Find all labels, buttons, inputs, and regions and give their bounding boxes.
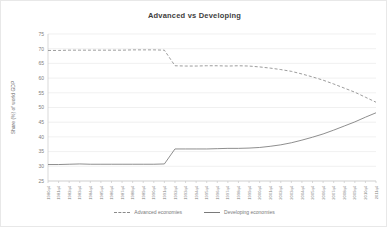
svg-text:1987q4: 1987q4: [120, 185, 125, 199]
svg-text:1986q4: 1986q4: [109, 185, 114, 199]
svg-text:2005q4: 2005q4: [310, 185, 315, 199]
svg-text:1998q4: 1998q4: [236, 185, 241, 199]
svg-text:1995q4: 1995q4: [204, 185, 209, 199]
legend-item-advanced: Advanced economies: [114, 209, 182, 215]
svg-text:75: 75: [38, 31, 44, 37]
legend-swatch-solid-icon: [204, 212, 220, 213]
x-axis-tick-labels: 1980q41981q41982q41983q41984q41985q41986…: [46, 181, 379, 200]
series-line-advanced-economies: [48, 50, 376, 102]
svg-text:1989q4: 1989q4: [141, 185, 146, 199]
svg-text:25: 25: [38, 178, 44, 184]
svg-text:2004q4: 2004q4: [300, 185, 305, 199]
svg-text:60: 60: [38, 75, 44, 81]
chart-plot-area: 2530354045505560657075 1980q41981q41982q…: [1, 1, 387, 227]
svg-text:1993q4: 1993q4: [183, 185, 188, 199]
svg-text:1994q4: 1994q4: [194, 185, 199, 199]
svg-text:2001q4: 2001q4: [268, 185, 273, 199]
svg-text:45: 45: [38, 119, 44, 125]
svg-text:2011q4: 2011q4: [374, 185, 379, 199]
svg-text:1982q4: 1982q4: [67, 185, 72, 199]
svg-text:2000q4: 2000q4: [257, 185, 262, 199]
svg-text:1992q4: 1992q4: [173, 185, 178, 199]
legend-label-advanced: Advanced economies: [134, 209, 182, 215]
svg-text:1990q4: 1990q4: [151, 185, 156, 199]
svg-text:70: 70: [38, 46, 44, 52]
svg-text:1988q4: 1988q4: [130, 185, 135, 199]
svg-text:2008q4: 2008q4: [342, 185, 347, 199]
svg-text:55: 55: [38, 90, 44, 96]
legend-swatch-dashed-icon: [114, 212, 130, 213]
svg-text:1996q4: 1996q4: [215, 185, 220, 199]
y-axis-tick-labels: 2530354045505560657075: [38, 31, 44, 184]
svg-text:2006q4: 2006q4: [321, 185, 326, 199]
chart-card: Advanced vs Developing 25303540455055606…: [0, 0, 387, 227]
svg-text:50: 50: [38, 104, 44, 110]
svg-text:30: 30: [38, 163, 44, 169]
svg-text:2007q4: 2007q4: [331, 185, 336, 199]
svg-text:2009q4: 2009q4: [352, 185, 357, 199]
svg-text:1997q4: 1997q4: [225, 185, 230, 199]
gridlines: [48, 34, 376, 181]
y-axis-title: Share (%) of world GDP: [10, 80, 16, 134]
series-line-developing-economies: [48, 113, 376, 165]
svg-text:2003q4: 2003q4: [289, 185, 294, 199]
svg-text:1991q4: 1991q4: [162, 185, 167, 199]
svg-text:65: 65: [38, 60, 44, 66]
legend-label-developing: Developing economies: [224, 209, 275, 215]
svg-text:1999q4: 1999q4: [247, 185, 252, 199]
svg-text:1980q4: 1980q4: [46, 185, 51, 199]
svg-text:1985q4: 1985q4: [99, 185, 104, 199]
legend-item-developing: Developing economies: [204, 209, 275, 215]
svg-text:40: 40: [38, 134, 44, 140]
svg-text:1983q4: 1983q4: [77, 185, 82, 199]
chart-legend: Advanced economies Developing economies: [1, 209, 387, 215]
svg-text:2010q4: 2010q4: [363, 185, 368, 199]
svg-text:1981q4: 1981q4: [56, 185, 61, 199]
svg-text:35: 35: [38, 148, 44, 154]
svg-text:1984q4: 1984q4: [88, 185, 93, 199]
svg-text:2002q4: 2002q4: [278, 185, 283, 199]
